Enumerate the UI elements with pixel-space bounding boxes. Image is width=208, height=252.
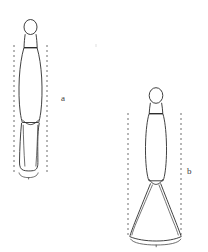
figure-b-group [128,88,181,248]
figure-a-base-bracket [19,173,38,178]
figure-b-skirt-fold-left [132,185,153,236]
figure-b-body-outline [145,114,166,181]
figure-a-body-outline [19,48,42,123]
figure-a-inner-taper-left [23,125,25,167]
figure-a-group [14,20,47,180]
figure-b-head-knob [149,88,163,104]
figure-a-collar [24,34,37,47]
figure-label-a: a [61,94,65,103]
figure-b-collar [149,103,163,114]
figure-label-b: b [187,167,192,176]
figure-b-skirt-outline [130,183,181,241]
figure-b-skirt-fold-right [159,185,179,236]
figure-canvas [0,0,208,252]
figure-a-guide-lines [14,45,47,172]
figure-a-head-knob [24,20,37,35]
